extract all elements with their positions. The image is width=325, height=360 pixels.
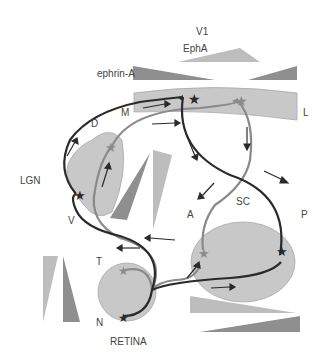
star-icon: ★ (118, 311, 129, 325)
label-a: A (187, 209, 194, 220)
label-n: N (96, 317, 103, 328)
label-l: L (303, 107, 309, 118)
retina-gradient-dark (63, 256, 80, 322)
star-icon: ★ (188, 91, 201, 107)
ephrin-a-gradient-right (248, 66, 297, 80)
label-epha: EphA (183, 43, 208, 54)
lgn-gradient-light (153, 150, 172, 230)
label-p: P (301, 209, 308, 220)
label-ephrin-a: ephrin-A (97, 68, 135, 79)
label-d: D (91, 118, 98, 129)
label-v: V (68, 215, 75, 226)
label-lgn: LGN (20, 175, 41, 186)
retina-gradient-light (43, 256, 58, 322)
sc-region (191, 222, 295, 302)
star-icon: ★ (276, 244, 288, 259)
star-icon: ★ (105, 140, 117, 155)
label-v1: V1 (196, 26, 209, 37)
retinotopic-map-diagram: ★ ★ ★ ★ ★ ★ ★ ★ V1 EphA ephrin-A M L D V… (0, 0, 325, 360)
star-icon: ★ (118, 264, 129, 278)
star-icon: ★ (235, 93, 248, 109)
ephrin-a-gradient-left (133, 66, 215, 80)
label-retina: RETINA (110, 336, 147, 347)
sc-gradient-dark (200, 316, 300, 332)
label-t: T (96, 256, 102, 267)
label-sc: SC (236, 196, 250, 207)
star-icon: ★ (74, 188, 86, 203)
v1-region (134, 88, 297, 121)
star-icon: ★ (198, 246, 210, 261)
label-m: M (121, 107, 129, 118)
